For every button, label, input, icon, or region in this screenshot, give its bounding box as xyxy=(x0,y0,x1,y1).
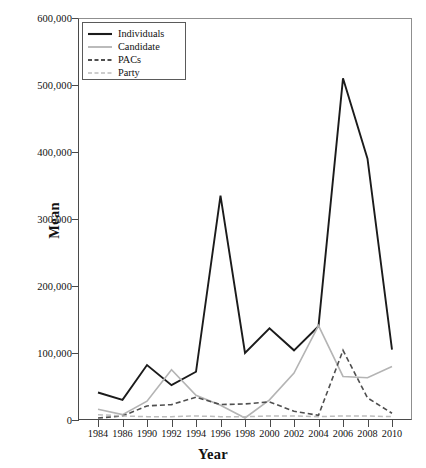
x-tick-mark xyxy=(270,420,271,427)
x-tick-mark xyxy=(147,420,148,427)
legend-label: Individuals xyxy=(118,27,164,40)
y-tick-label: 200,000 xyxy=(37,281,72,292)
x-tick-label: 2008 xyxy=(357,428,377,439)
y-tick-label: 600,000 xyxy=(37,13,72,24)
legend-item-party: Party xyxy=(87,66,180,79)
legend-item-candidate: Candidate xyxy=(87,40,180,53)
legend-swatch-icon xyxy=(87,29,113,39)
x-tick-label: 1994 xyxy=(186,428,206,439)
x-tick-label: 1998 xyxy=(235,428,255,439)
x-tick-mark xyxy=(245,420,246,427)
y-tick-label: 400,000 xyxy=(37,147,72,158)
x-tick-mark xyxy=(196,420,197,427)
x-tick-mark xyxy=(368,420,369,427)
x-tick-label: 1996 xyxy=(210,428,230,439)
x-tick-mark xyxy=(319,420,320,427)
y-tick-label: 100,000 xyxy=(37,348,72,359)
x-tick-mark xyxy=(294,420,295,427)
x-tick-label: 2006 xyxy=(333,428,353,439)
series-line-pacs xyxy=(98,350,392,418)
legend-item-pacs: PACs xyxy=(87,53,180,66)
y-axis-title: Mean xyxy=(46,161,63,281)
x-axis-labels: 1984198619901992199419961998200020022004… xyxy=(0,428,426,442)
legend-item-individuals: Individuals xyxy=(87,27,180,40)
legend-swatch-icon xyxy=(87,55,113,65)
series-line-individuals xyxy=(98,78,392,400)
x-tick-mark xyxy=(392,420,393,427)
x-tick-mark xyxy=(123,420,124,427)
y-tick-label: 500,000 xyxy=(37,80,72,91)
x-tick-mark xyxy=(343,420,344,427)
x-tick-mark xyxy=(221,420,222,427)
x-tick-label: 1986 xyxy=(112,428,132,439)
x-axis-title: Year xyxy=(0,446,426,463)
chart-container: 0100,000200,000300,000400,000500,000600,… xyxy=(0,0,426,468)
x-tick-label: 1992 xyxy=(161,428,181,439)
legend-label: PACs xyxy=(118,53,141,66)
chart-legend: IndividualsCandidatePACsParty xyxy=(82,22,186,80)
legend-swatch-icon xyxy=(87,68,113,78)
x-tick-label: 2002 xyxy=(284,428,304,439)
x-tick-label: 1984 xyxy=(88,428,108,439)
x-tick-label: 2004 xyxy=(308,428,328,439)
x-tick-label: 2000 xyxy=(259,428,279,439)
legend-label: Party xyxy=(118,66,140,79)
x-tick-label: 1990 xyxy=(137,428,157,439)
x-tick-mark xyxy=(98,420,99,427)
legend-swatch-icon xyxy=(87,42,113,52)
x-tick-mark xyxy=(172,420,173,427)
legend-label: Candidate xyxy=(118,40,160,53)
x-tick-label: 2010 xyxy=(382,428,402,439)
series-line-party xyxy=(98,415,392,417)
